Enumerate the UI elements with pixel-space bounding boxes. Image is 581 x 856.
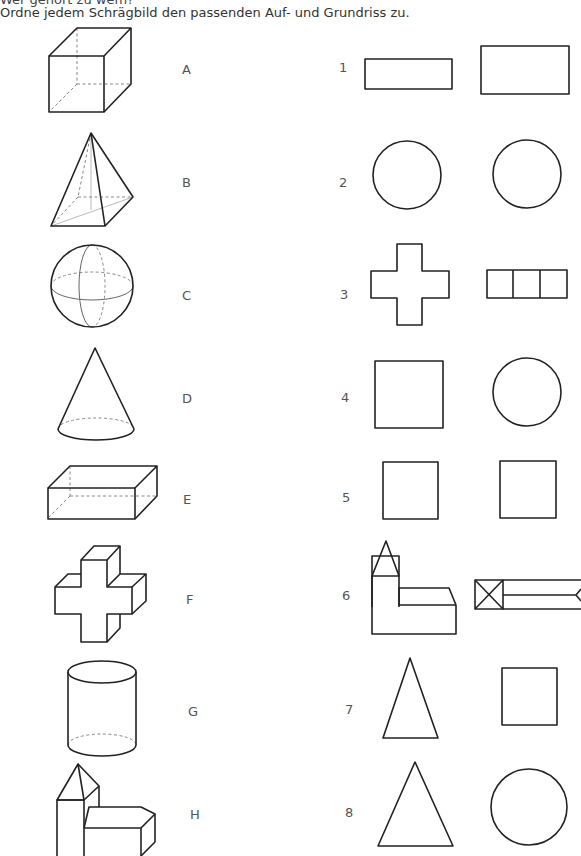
view-number-8: 8 <box>345 805 353 820</box>
solid-h-church-drawing <box>57 764 155 856</box>
solid-label-a: A <box>182 62 191 77</box>
view-7-drawings <box>383 658 557 738</box>
view-number-1: 1 <box>339 60 347 75</box>
view-8-drawings <box>378 762 567 846</box>
solid-e-cuboid-drawing <box>48 466 157 519</box>
view-number-6: 6 <box>342 588 350 603</box>
view-3-drawings <box>371 244 567 325</box>
solid-label-g: G <box>188 704 198 719</box>
view-number-4: 4 <box>341 390 349 405</box>
view-number-3: 3 <box>340 287 348 302</box>
solid-f-cross-drawing <box>55 546 146 642</box>
solid-label-b: B <box>182 175 191 190</box>
view-1-drawings <box>365 46 569 94</box>
view-5-drawings <box>383 461 556 519</box>
solid-c-sphere-drawing <box>51 245 133 327</box>
solid-label-d: D <box>182 391 192 406</box>
view-6-drawings <box>372 541 581 634</box>
view-2-drawings <box>373 140 561 209</box>
solid-g-cylinder-drawing <box>68 661 136 756</box>
view-number-7: 7 <box>345 702 353 717</box>
solid-label-e: E <box>183 492 191 507</box>
view-number-5: 5 <box>342 490 350 505</box>
solid-b-pyramid-drawing <box>51 133 133 226</box>
view-number-2: 2 <box>339 175 347 190</box>
solid-label-c: C <box>182 288 191 303</box>
solid-d-cone-drawing <box>58 348 134 440</box>
solid-label-h: H <box>190 807 200 822</box>
solid-label-f: F <box>186 592 193 607</box>
solid-a-cube-drawing <box>49 28 131 112</box>
view-4-drawings <box>375 358 561 428</box>
